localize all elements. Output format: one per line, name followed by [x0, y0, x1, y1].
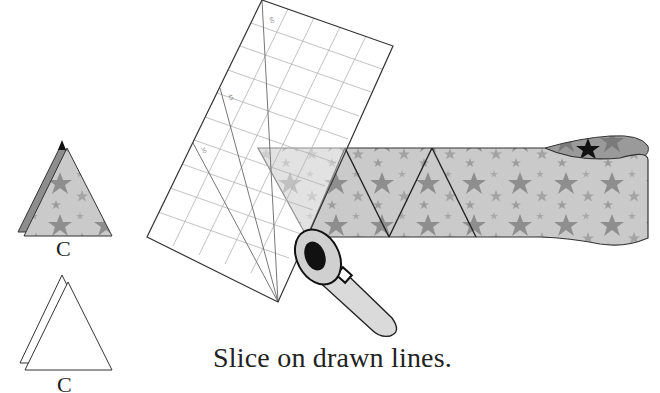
- fold-tip-icon: [58, 140, 66, 150]
- piece-label-c-fabric: C: [56, 236, 71, 262]
- instruction-caption: Slice on drawn lines.: [213, 342, 452, 374]
- piece-c-outline: [20, 275, 112, 370]
- piece-label-c-outline: C: [57, 372, 72, 393]
- front-triangle: [24, 148, 112, 236]
- piece-c-fabric: [18, 140, 112, 236]
- rotary-cutter-icon: [286, 222, 397, 337]
- diagram-canvas: 60 45 30: [0, 0, 660, 393]
